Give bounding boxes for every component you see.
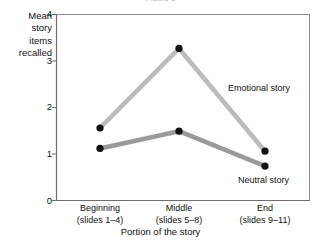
data-point-emotional-middle	[175, 45, 182, 52]
chart-figure: Figure 1 Mean story items recalled 0 1 2…	[0, 0, 321, 245]
x-tick-beginning-name: Beginning	[80, 203, 120, 213]
x-tick-middle-name: Middle	[166, 203, 193, 213]
series-label-emotional: Emotional story	[228, 83, 290, 93]
data-point-emotional-end	[261, 148, 268, 155]
data-point-neutral-middle	[175, 128, 182, 135]
data-point-emotional-beginning	[96, 124, 103, 131]
x-tick-end: End (slides 9–11)	[210, 203, 320, 226]
series-label-neutral: Neutral story	[238, 175, 289, 185]
x-tick-end-name: End	[257, 203, 273, 213]
data-point-neutral-end	[261, 163, 268, 170]
plot-frame	[57, 15, 310, 201]
x-axis-title: Portion of the story	[0, 226, 321, 237]
x-tick-end-sub: (slides 9–11)	[210, 215, 320, 227]
data-point-neutral-beginning	[96, 145, 103, 152]
